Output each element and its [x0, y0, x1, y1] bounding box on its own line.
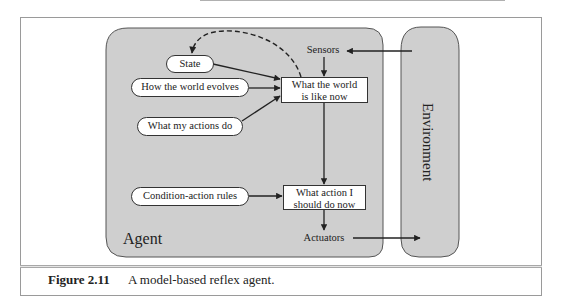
world-evolves-node: How the world evolves [131, 78, 249, 97]
caption-text: A model-based reflex agent. [128, 272, 275, 287]
action-now-line2: should do now [284, 199, 365, 211]
figure-number: Figure 2.11 [48, 272, 110, 287]
agent-box [106, 28, 383, 257]
actions-do-node: What my actions do [137, 117, 243, 136]
actuators-label: Actuators [298, 232, 350, 244]
environment-label: Environment [419, 103, 436, 181]
action-now-line1: What action I [284, 187, 365, 199]
state-node: State [166, 55, 214, 73]
world-now-node: What the world is like now [281, 77, 368, 103]
condition-action-rules-node: Condition-action rules [131, 187, 249, 206]
world-now-line1: What the world [282, 79, 367, 91]
agent-label: Agent [123, 230, 162, 248]
diagram-canvas [0, 0, 562, 306]
world-now-line2: is like now [282, 91, 367, 103]
caption-divider [20, 265, 542, 268]
sensors-label: Sensors [300, 44, 346, 56]
action-now-node: What action I should do now [283, 185, 366, 210]
figure-caption: Figure 2.11A model-based reflex agent. [48, 272, 274, 288]
